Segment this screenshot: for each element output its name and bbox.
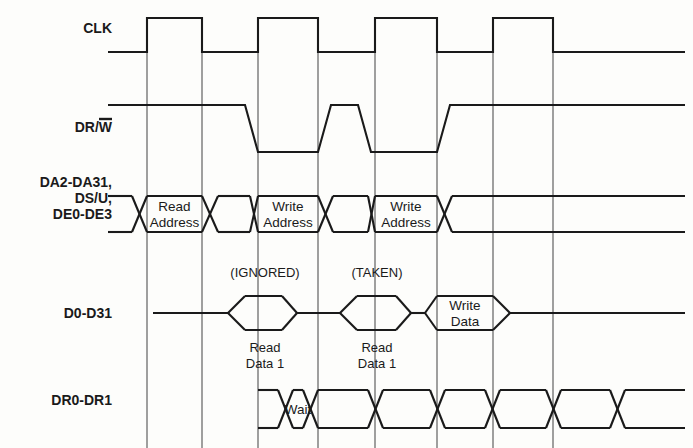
- bus-value-label: Wait: [285, 402, 312, 417]
- bus-crossing-d_bus: [340, 313, 357, 330]
- bus-crossing-d_bus: [425, 296, 437, 313]
- taken-note: (TAKEN): [351, 265, 402, 280]
- bus-crossing-d_bus: [228, 313, 245, 330]
- bus-crossing-d_bus: [396, 296, 411, 313]
- signal-label-dr_bus: DR0-DR1: [51, 392, 112, 408]
- read-data-1-note: Data 1: [246, 356, 284, 371]
- bus-value-label: Write: [272, 199, 303, 214]
- bus-value-label: Write: [449, 298, 480, 313]
- bus-value-label: Write: [390, 199, 421, 214]
- signal-label-da_bus: DE0-DE3: [53, 206, 112, 222]
- timing-diagram-svg: CLKDR/WDA2-DA31,DS/U,DE0-DE3D0-D31DR0-DR…: [0, 0, 693, 448]
- bus-crossing-d_bus: [282, 296, 297, 313]
- bus-value-label: Address: [150, 215, 200, 230]
- bus-crossing-d_bus: [228, 296, 245, 313]
- waveform-drw: [108, 105, 685, 152]
- read-data-1-note: Data 1: [358, 356, 396, 371]
- annotation-layer: (IGNORED)(TAKEN)ReadData 1ReadData 1: [230, 265, 402, 371]
- signal-label-clk: CLK: [83, 20, 112, 36]
- waveform-clk: [108, 18, 685, 52]
- bus-value-label: Address: [263, 215, 313, 230]
- bus-value-label: Read: [158, 199, 190, 214]
- ignored-note: (IGNORED): [230, 265, 299, 280]
- bus-value-label: Data: [451, 314, 480, 329]
- signal-label-da_bus: DS/U,: [75, 190, 112, 206]
- signal-label-d_bus: D0-D31: [64, 305, 112, 321]
- bus-crossing-d_bus: [340, 296, 357, 313]
- read-data-1-note: Read: [361, 340, 392, 355]
- timing-diagram-canvas: CLKDR/WDA2-DA31,DS/U,DE0-DE3D0-D31DR0-DR…: [0, 0, 693, 448]
- bus-crossing-d_bus: [493, 296, 510, 313]
- signal-label-da_bus: DA2-DA31,: [40, 174, 112, 190]
- bus-crossing-d_bus: [282, 313, 297, 330]
- signal-label-drw: DR/W: [75, 119, 113, 135]
- bus-crossing-d_bus: [425, 313, 437, 330]
- bus-crossing-d_bus: [493, 313, 510, 330]
- bus-crossing-d_bus: [396, 313, 411, 330]
- bus-value-label: Address: [381, 215, 431, 230]
- read-data-1-note: Read: [249, 340, 280, 355]
